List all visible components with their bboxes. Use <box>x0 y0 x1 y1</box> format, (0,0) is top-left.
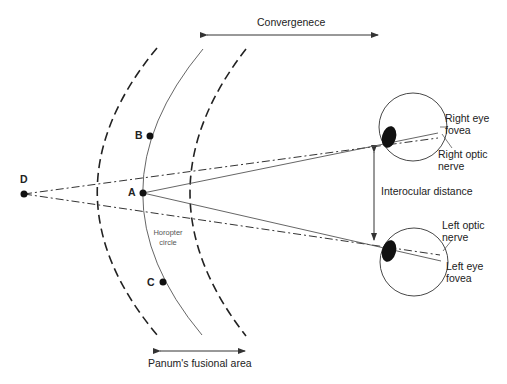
left-nerve-line2: nerve <box>442 231 485 243</box>
point-a-label: A <box>128 186 136 198</box>
right-nerve-label: Right optic nerve <box>438 148 488 172</box>
point-d <box>21 191 28 198</box>
right-nerve-line2: nerve <box>438 160 488 172</box>
left-fovea-line2: fovea <box>446 272 483 284</box>
horopter-label-line2: circle <box>150 238 186 248</box>
right-fovea-line2: fovea <box>445 124 489 136</box>
left-fovea-line1: Left eye <box>446 260 483 272</box>
panum-inner-boundary <box>190 49 246 336</box>
line-a-left-eye <box>143 193 441 261</box>
point-b <box>147 133 154 140</box>
left-nerve-line1: Left optic <box>442 219 485 231</box>
point-c-label: C <box>147 276 155 288</box>
point-d-label: D <box>20 173 28 185</box>
panum-label: Panum's fusional area <box>148 357 252 369</box>
horopter-label: Horopter circle <box>150 228 186 248</box>
left-fovea-label: Left eye fovea <box>446 260 483 284</box>
left-eye <box>380 228 448 296</box>
horopter-label-line1: Horopter <box>150 228 186 238</box>
point-b-label: B <box>135 129 143 141</box>
interocular-label: Interocular distance <box>381 185 473 197</box>
right-nerve-line1: Right optic <box>438 148 488 160</box>
horopter-circle <box>143 49 203 335</box>
left-eye-lens <box>379 239 398 264</box>
visual-axis-left <box>24 194 440 255</box>
right-fovea-label: Right eye fovea <box>445 112 489 136</box>
right-eye-lens <box>379 125 398 150</box>
point-a <box>140 190 147 197</box>
point-c <box>160 279 167 286</box>
left-nerve-label: Left optic nerve <box>442 219 485 243</box>
right-fovea-line1: Right eye <box>445 112 489 124</box>
convergence-label: Convergenece <box>257 16 325 28</box>
visual-axis-right <box>24 138 438 194</box>
